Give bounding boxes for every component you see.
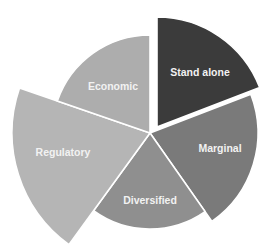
chart-slices bbox=[12, 17, 260, 245]
polar-area-chart: Stand alone Marginal Diversified Regulat… bbox=[0, 0, 279, 245]
label-marginal: Marginal bbox=[198, 142, 241, 154]
label-diversified: Diversified bbox=[123, 194, 177, 206]
label-regulatory: Regulatory bbox=[36, 146, 91, 158]
label-economic: Economic bbox=[88, 80, 138, 92]
label-stand-alone: Stand alone bbox=[170, 66, 230, 78]
